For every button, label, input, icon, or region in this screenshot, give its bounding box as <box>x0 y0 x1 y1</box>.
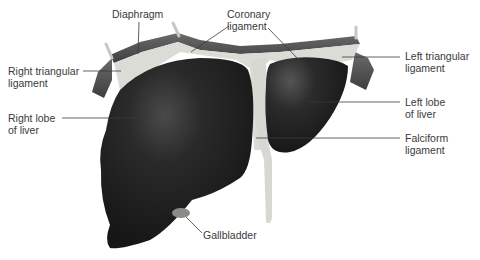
label-right-triangular-ligament: Right triangular ligament <box>8 65 79 89</box>
label-diaphragm: Diaphragm <box>112 8 163 20</box>
liver-diagram <box>0 0 480 260</box>
gallbladder <box>172 208 190 218</box>
label-falciform-ligament: Falciform ligament <box>405 132 448 156</box>
label-left-lobe: Left lobe of liver <box>405 96 445 120</box>
label-gallbladder: Gallbladder <box>203 229 257 241</box>
label-right-lobe: Right lobe of liver <box>8 112 55 136</box>
label-coronary-ligament: Coronary ligament <box>227 8 270 32</box>
label-left-triangular-ligament: Left triangular ligament <box>405 50 469 74</box>
